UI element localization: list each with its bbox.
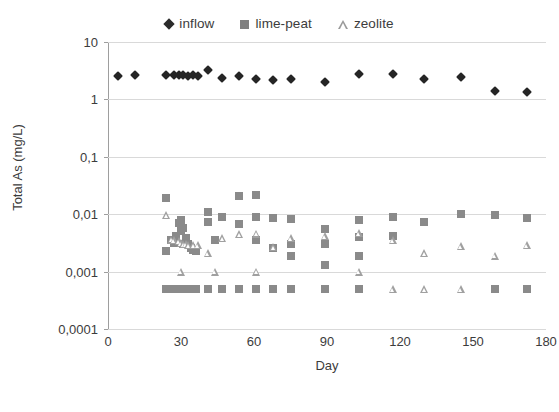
gridline [108, 329, 546, 330]
legend-label-zeolite: zeolite [354, 17, 394, 31]
data-point-inflow [251, 74, 261, 84]
data-point-lime-peat [192, 285, 200, 293]
y-tick-label: 0,0001 [58, 322, 98, 337]
y-tick-label: 0,001 [65, 264, 98, 279]
x-tick-label: 30 [174, 334, 188, 349]
legend-item-lime-peat[interactable]: lime-peat [240, 17, 311, 31]
data-point-lime-peat [252, 191, 260, 199]
y-tick-mark [104, 214, 108, 215]
triangle-inner [288, 237, 292, 241]
triangle-inner [492, 254, 496, 258]
chart-legend: inflow lime-peat zeolite [0, 14, 559, 34]
legend-item-inflow[interactable]: inflow [165, 17, 214, 31]
triangle-inner [322, 235, 326, 239]
data-point-lime-peat [457, 210, 465, 218]
gridline [108, 157, 546, 158]
y-tick-mark [104, 99, 108, 100]
data-point-lime-peat [235, 285, 243, 293]
y-tick-mark [104, 157, 108, 158]
triangle-inner [164, 214, 168, 218]
data-point-lime-peat [252, 236, 260, 244]
x-axis-tick-labels: 0306090120150180 [108, 334, 546, 354]
data-point-zeolite [355, 268, 363, 276]
y-axis-line [108, 42, 109, 329]
y-tick-mark [104, 42, 108, 43]
data-point-lime-peat [355, 216, 363, 224]
gridline [108, 99, 546, 100]
open-triangle-icon [338, 20, 348, 29]
x-axis-title: Day [108, 358, 546, 373]
data-point-lime-peat [389, 213, 397, 221]
data-point-lime-peat [491, 285, 499, 293]
data-point-zeolite [218, 234, 226, 242]
data-point-zeolite [211, 268, 219, 276]
data-point-lime-peat [179, 224, 187, 232]
triangle-inner [220, 237, 224, 241]
triangle-inner [390, 239, 394, 243]
data-point-lime-peat [269, 285, 277, 293]
data-point-zeolite [355, 229, 363, 237]
data-point-zeolite [389, 285, 397, 293]
data-point-lime-peat [235, 192, 243, 200]
data-point-lime-peat [287, 215, 295, 223]
filled-diamond-icon [164, 18, 175, 29]
triangle-inner [422, 252, 426, 256]
y-tick-mark [104, 329, 108, 330]
legend-label-lime-peat: lime-peat [255, 17, 311, 31]
triangle-inner [205, 252, 209, 256]
data-point-lime-peat [162, 194, 170, 202]
data-point-zeolite [162, 211, 170, 219]
data-point-lime-peat [177, 216, 185, 224]
data-point-zeolite [235, 230, 243, 238]
data-point-zeolite [491, 252, 499, 260]
y-tick-mark [104, 272, 108, 273]
data-point-lime-peat [252, 285, 260, 293]
data-point-inflow [490, 86, 500, 96]
data-point-zeolite [269, 243, 277, 251]
data-point-lime-peat [204, 285, 212, 293]
data-point-zeolite [420, 249, 428, 257]
data-point-inflow [269, 75, 279, 85]
triangle-inner [178, 270, 182, 274]
data-point-lime-peat [269, 214, 277, 222]
data-point-lime-peat [235, 220, 243, 228]
data-point-inflow [286, 74, 296, 84]
data-point-inflow [354, 69, 364, 79]
triangle-inner [390, 288, 394, 292]
data-point-inflow [320, 77, 330, 87]
x-tick-label: 180 [535, 334, 557, 349]
x-tick-label: 60 [247, 334, 261, 349]
data-point-lime-peat [162, 247, 170, 255]
data-point-lime-peat [218, 213, 226, 221]
data-point-zeolite [420, 285, 428, 293]
data-point-lime-peat [252, 213, 260, 221]
data-point-lime-peat [355, 252, 363, 260]
plot-area [108, 42, 546, 329]
data-point-inflow [203, 65, 213, 75]
triangle-inner [458, 245, 462, 249]
legend-item-zeolite[interactable]: zeolite [338, 17, 394, 31]
gridline [108, 272, 546, 273]
data-point-lime-peat [321, 261, 329, 269]
data-point-lime-peat [523, 285, 531, 293]
y-tick-label: 0,01 [73, 207, 98, 222]
data-point-zeolite [252, 230, 260, 238]
data-point-inflow [234, 71, 244, 81]
data-point-lime-peat [204, 208, 212, 216]
data-point-inflow [419, 74, 429, 84]
data-point-zeolite [523, 241, 531, 249]
data-point-zeolite [389, 236, 397, 244]
y-tick-label: 0,1 [80, 149, 98, 164]
triangle-inner [458, 288, 462, 292]
triangle-inner [356, 270, 360, 274]
data-point-lime-peat [204, 218, 212, 226]
triangle-inner [254, 232, 258, 236]
data-point-zeolite [321, 232, 329, 240]
data-point-inflow [456, 72, 466, 82]
legend-label-inflow: inflow [179, 17, 214, 31]
gridline [108, 214, 546, 215]
data-point-lime-peat [287, 252, 295, 260]
triangle-inner [254, 270, 258, 274]
data-point-zeolite [457, 285, 465, 293]
data-point-lime-peat [491, 211, 499, 219]
